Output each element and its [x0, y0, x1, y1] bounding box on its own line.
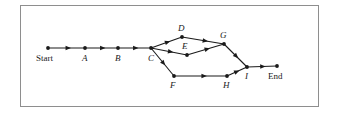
graph-edge: [187, 44, 224, 55]
graph-node-g: [222, 42, 226, 46]
node-label-i: I: [245, 72, 248, 81]
node-label-e: E: [182, 42, 188, 51]
graph-edge: [224, 44, 247, 67]
graph-node-end: [275, 64, 279, 68]
graph-node-start: [46, 46, 50, 50]
edge-arrowhead: [204, 48, 210, 52]
edge-arrowhead: [202, 38, 208, 42]
edge-arrowhead: [133, 46, 138, 51]
graph-edge: [85, 46, 118, 51]
graph-edge: [118, 46, 151, 51]
graph-node-i: [245, 65, 249, 69]
graph-edge: [151, 37, 182, 48]
graph-edge: [182, 37, 224, 44]
graph-node-f: [172, 74, 176, 78]
graph-node-d: [180, 35, 184, 39]
graph-node-e: [185, 53, 189, 57]
node-label-a: A: [82, 54, 88, 63]
node-label-c: C: [148, 54, 154, 63]
node-label-end: End: [268, 72, 283, 81]
graph-edge: [227, 67, 247, 76]
edge-arrowhead: [201, 74, 206, 79]
graph-node-h: [225, 74, 229, 78]
edge-arrowhead: [168, 49, 174, 53]
edge-arrowhead: [164, 41, 170, 45]
graph-node-b: [116, 46, 120, 50]
node-label-d: D: [178, 24, 185, 33]
graph-edge: [247, 64, 277, 69]
node-label-g: G: [220, 31, 227, 40]
edge-arrowhead: [100, 46, 105, 51]
graph-edge: [48, 46, 85, 51]
edge-arrowhead: [66, 46, 71, 51]
node-label-b: B: [115, 54, 121, 63]
graph-edge: [174, 74, 227, 79]
edge-arrowhead: [260, 64, 265, 69]
node-label-h: H: [223, 81, 230, 90]
diagram-screenshot: StartABCDEFGHIEnd: [0, 0, 338, 114]
node-label-start: Start: [36, 54, 53, 63]
node-label-f: F: [170, 81, 176, 90]
graph-node-c: [149, 46, 153, 50]
graph-node-a: [83, 46, 87, 50]
